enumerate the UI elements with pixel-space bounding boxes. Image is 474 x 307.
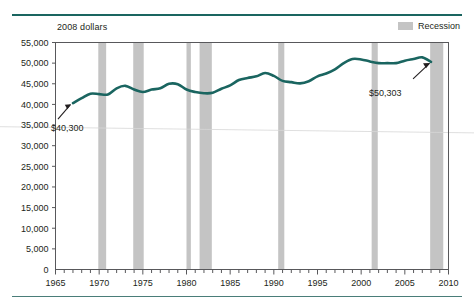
- x-tick-label: 1980: [176, 278, 196, 288]
- bottom-rule: [12, 296, 462, 297]
- y-tick-label: 55,000: [21, 38, 49, 48]
- recession-band: [133, 43, 143, 270]
- recession-bands: [98, 43, 443, 270]
- x-tick-label: 2000: [351, 278, 371, 288]
- recession-band: [200, 43, 212, 270]
- y-tick-label: 45,000: [21, 79, 49, 89]
- x-tick-label: 2010: [438, 278, 458, 288]
- x-tick-label: 1970: [89, 278, 109, 288]
- x-tick-label: 1985: [220, 278, 240, 288]
- x-tick-label: 1995: [307, 278, 327, 288]
- x-tick-label: 1990: [264, 278, 284, 288]
- x-axis: 1965197019751980198519901995200020052010: [45, 270, 458, 288]
- annotation-label-end: $50,303: [369, 88, 402, 98]
- y-tick-label: 0: [43, 265, 48, 275]
- y-tick-label: 30,000: [21, 141, 49, 151]
- y-tick-label: 20,000: [21, 182, 49, 192]
- y-axis: 05,00010,00015,00020,00025,00030,00035,0…: [21, 38, 56, 275]
- chart-figure: 2008 dollars Recession 05,00010,00015,00…: [0, 0, 474, 307]
- annotation-arrow-head: [65, 104, 71, 109]
- x-tick-label: 2005: [395, 278, 415, 288]
- recession-band: [278, 43, 284, 270]
- y-tick-label: 25,000: [21, 162, 49, 172]
- y-tick-label: 35,000: [21, 120, 49, 130]
- x-tick-label: 1965: [45, 278, 65, 288]
- y-tick-label: 10,000: [21, 224, 49, 234]
- annotation-arrow-head: [423, 63, 430, 68]
- y-tick-label: 50,000: [21, 58, 49, 68]
- x-tick-label: 1975: [133, 278, 153, 288]
- y-tick-label: 5,000: [26, 244, 49, 254]
- recession-band: [187, 43, 191, 270]
- y-tick-label: 40,000: [21, 100, 49, 110]
- recession-band: [98, 43, 106, 270]
- recession-band: [430, 43, 443, 270]
- annotation-label-start: $40,300: [51, 123, 84, 133]
- chart-plot: 05,00010,00015,00020,00025,00030,00035,0…: [0, 0, 474, 307]
- recession-band: [372, 43, 378, 270]
- y-tick-label: 15,000: [21, 203, 49, 213]
